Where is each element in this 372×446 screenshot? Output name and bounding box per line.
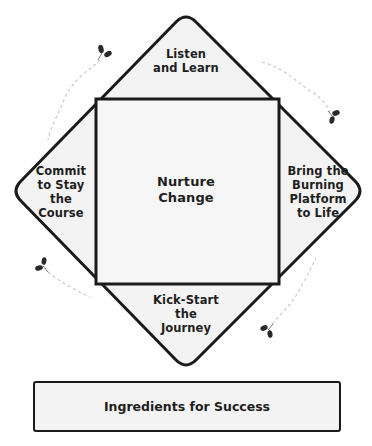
sprout-icon xyxy=(97,44,112,60)
center-text: Nurture Change xyxy=(157,174,215,206)
center-label: Nurture Change xyxy=(110,170,262,210)
ingredients-bar: Ingredients for Success xyxy=(33,381,341,432)
section-bottom-label: Kick-Start the Journey xyxy=(136,291,236,337)
section-right-text: Bring the Burning Platform to Life xyxy=(287,164,348,220)
trail-bottom-left xyxy=(48,272,90,297)
ingredients-bar-label: Ingredients for Success xyxy=(104,399,270,414)
sprout-icon xyxy=(259,324,273,338)
section-left-text: Commit to Stay the Course xyxy=(36,164,86,220)
section-right-label: Bring the Burning Platform to Life xyxy=(282,160,354,224)
section-top-label: Listen and Learn xyxy=(136,45,236,77)
section-bottom-text: Kick-Start the Journey xyxy=(153,293,219,335)
section-left-label: Commit to Stay the Course xyxy=(30,160,92,224)
section-top-text: Listen and Learn xyxy=(153,47,219,75)
sprout-icon xyxy=(34,257,48,272)
